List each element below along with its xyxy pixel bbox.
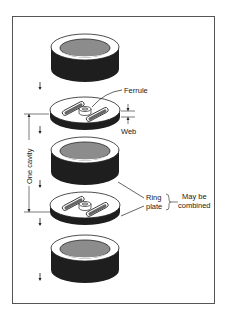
- brace: [166, 194, 178, 210]
- ring-1: [51, 34, 119, 82]
- combined-label: combined: [178, 201, 211, 210]
- down-arrow-icon: [39, 218, 42, 226]
- ring-leader: [118, 182, 144, 198]
- ferrule-label: Ferrule: [124, 86, 148, 95]
- ring-3: [51, 235, 119, 283]
- exploded-mold-diagram: Ferrule Web One cavity Ring plate May be…: [0, 0, 228, 318]
- down-arrow-icon: [39, 180, 42, 188]
- down-arrow-icon: [39, 82, 42, 90]
- plate-2: [50, 192, 120, 225]
- may-be-label: May be: [182, 192, 207, 201]
- web-label: Web: [121, 127, 136, 136]
- plate-1: [50, 97, 120, 130]
- down-arrow-icon: [39, 126, 42, 134]
- one-cavity-label: One cavity: [25, 148, 34, 184]
- web-dimension: [121, 104, 135, 124]
- plate-label: plate: [146, 202, 162, 211]
- ring-2: [51, 137, 119, 185]
- plate-leader: [121, 206, 144, 216]
- ring-label: Ring: [146, 193, 161, 202]
- down-arrow-icon: [39, 273, 42, 281]
